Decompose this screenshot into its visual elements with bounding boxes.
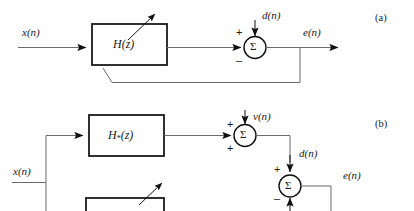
panel-a-sign-minus: – — [236, 55, 242, 66]
panel-b-sum2-sign-top: + — [274, 164, 280, 175]
panel-b-block-label-base: H — [108, 128, 117, 142]
panel-a-block-label-base: H — [113, 37, 122, 51]
panel-b-tag: (b) — [375, 119, 387, 130]
panel-b-input-label: x(n) — [13, 166, 31, 177]
panel-b-desired-signal-path — [256, 136, 290, 163]
panel-a-disturbance-label: d(n) — [262, 10, 280, 21]
block-diagram-figure: x(n) H(z) d(n) + – Σ e(n) (a) x(n) H*(z)… — [0, 0, 414, 211]
panel-b-sum1-sign-top: + — [227, 119, 233, 130]
panel-b-block-label-arg: (z) — [121, 128, 134, 142]
panel-a-sign-plus: + — [236, 27, 242, 38]
panel-b-error-output-path — [301, 186, 331, 211]
panel-a-input-label: x(n) — [22, 27, 40, 38]
panel-b-mid-label: d(n) — [299, 148, 317, 159]
panel-b-block-label: H*(z) — [108, 129, 133, 143]
panel-a-graphics — [18, 14, 338, 83]
panel-a-output-label: e(n) — [303, 27, 321, 38]
panel-a-tag: (a) — [375, 13, 387, 24]
panel-b-adaptive-filter-block — [86, 198, 164, 211]
panel-b-sum1-symbol: Σ — [240, 129, 246, 140]
panel-a-sum-symbol: Σ — [250, 41, 256, 52]
panel-b-output-label: e(n) — [343, 170, 361, 181]
panel-a-block-label: H(z) — [113, 38, 134, 50]
panel-b-sum2-sign-bottom: – — [274, 193, 280, 204]
panel-b-noise-label: v(n) — [253, 111, 271, 122]
panel-a-block-label-arg: (z) — [122, 37, 135, 51]
panel-b-sum2-symbol: Σ — [285, 180, 291, 191]
panel-b-sum1-sign-bottom: + — [227, 143, 233, 154]
panel-b-graphics — [12, 110, 331, 211]
